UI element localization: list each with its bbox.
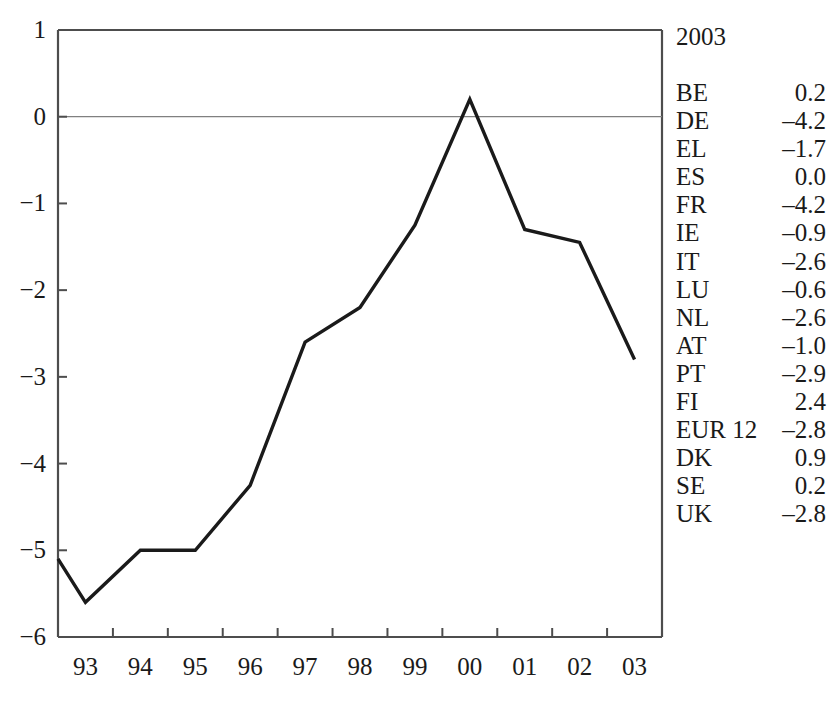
legend-row-value: –0.9 bbox=[782, 219, 826, 247]
x-tick-label: 01 bbox=[495, 654, 555, 679]
line-chart: 10−1−2−3−4−5−6 9394959697989900010203 20… bbox=[0, 0, 832, 710]
x-tick-label: 95 bbox=[165, 654, 225, 679]
y-axis-ticks bbox=[58, 30, 67, 637]
legend-row-value: 0.0 bbox=[795, 163, 826, 191]
legend-row: NL–2.6 bbox=[676, 304, 826, 332]
legend-row: DK0.9 bbox=[676, 444, 826, 472]
y-tick-label: 0 bbox=[0, 104, 46, 129]
legend-row: IT–2.6 bbox=[676, 248, 826, 276]
legend-row-value: –1.7 bbox=[782, 135, 826, 163]
legend-row-label: DK bbox=[676, 444, 712, 472]
legend-row-value: –4.2 bbox=[782, 191, 826, 219]
legend-row-label: NL bbox=[676, 304, 709, 332]
x-axis-ticks bbox=[58, 628, 662, 637]
legend-row-label: BE bbox=[676, 79, 708, 107]
legend-row: FI2.4 bbox=[676, 388, 826, 416]
legend-row-value: 0.2 bbox=[795, 79, 826, 107]
legend-row: ES0.0 bbox=[676, 163, 826, 191]
legend-row-label: AT bbox=[676, 332, 707, 360]
x-tick-label: 98 bbox=[330, 654, 390, 679]
legend-title: 2003 bbox=[676, 24, 826, 49]
x-tick-label: 02 bbox=[550, 654, 610, 679]
legend-row-value: –2.8 bbox=[782, 500, 826, 528]
y-tick-label: 1 bbox=[0, 17, 46, 42]
legend-row-label: ES bbox=[676, 163, 705, 191]
y-tick-label: −4 bbox=[0, 451, 46, 476]
x-tick-label: 99 bbox=[385, 654, 445, 679]
legend-row: SE0.2 bbox=[676, 472, 826, 500]
x-tick-label: 93 bbox=[55, 654, 115, 679]
legend-row: IE–0.9 bbox=[676, 219, 826, 247]
legend-row-label: FI bbox=[676, 388, 698, 416]
legend-row-label: FR bbox=[676, 191, 707, 219]
legend-row-label: DE bbox=[676, 107, 709, 135]
legend-row-value: –2.9 bbox=[782, 360, 826, 388]
data-series-line bbox=[58, 99, 635, 602]
legend-row-label: EUR 12 bbox=[676, 416, 757, 444]
y-tick-label: −2 bbox=[0, 277, 46, 302]
y-tick-label: −1 bbox=[0, 190, 46, 215]
legend-row-label: SE bbox=[676, 472, 705, 500]
legend-row: UK–2.8 bbox=[676, 500, 826, 528]
legend-row: FR–4.2 bbox=[676, 191, 826, 219]
legend-row: EUR 12–2.8 bbox=[676, 416, 826, 444]
axis-frame bbox=[58, 30, 662, 637]
legend-row: AT–1.0 bbox=[676, 332, 826, 360]
x-tick-label: 03 bbox=[605, 654, 665, 679]
y-tick-label: −6 bbox=[0, 624, 46, 649]
legend-row-value: 2.4 bbox=[795, 388, 826, 416]
legend-row-value: 0.9 bbox=[795, 444, 826, 472]
legend-row-value: –2.8 bbox=[782, 416, 826, 444]
legend-row-value: 0.2 bbox=[795, 472, 826, 500]
legend-row: EL–1.7 bbox=[676, 135, 826, 163]
y-tick-label: −3 bbox=[0, 364, 46, 389]
legend-row: BE0.2 bbox=[676, 79, 826, 107]
x-tick-label: 00 bbox=[440, 654, 500, 679]
legend-table: 2003 BE0.2DE–4.2EL–1.7ES0.0FR–4.2IE–0.9I… bbox=[676, 24, 826, 529]
legend-row: DE–4.2 bbox=[676, 107, 826, 135]
legend-row-value: –4.2 bbox=[782, 107, 826, 135]
legend-row-label: LU bbox=[676, 276, 709, 304]
x-tick-label: 94 bbox=[110, 654, 170, 679]
legend-row-value: –1.0 bbox=[782, 332, 826, 360]
legend-row-label: EL bbox=[676, 135, 707, 163]
x-tick-label: 96 bbox=[220, 654, 280, 679]
x-tick-label: 97 bbox=[275, 654, 335, 679]
legend-row-label: UK bbox=[676, 500, 712, 528]
legend-row-value: –2.6 bbox=[782, 304, 826, 332]
legend-rows: BE0.2DE–4.2EL–1.7ES0.0FR–4.2IE–0.9IT–2.6… bbox=[676, 79, 826, 529]
legend-row-value: –0.6 bbox=[782, 276, 826, 304]
legend-row-label: PT bbox=[676, 360, 705, 388]
legend-row: LU–0.6 bbox=[676, 276, 826, 304]
y-tick-label: −5 bbox=[0, 537, 46, 562]
legend-row-label: IE bbox=[676, 219, 700, 247]
legend-row: PT–2.9 bbox=[676, 360, 826, 388]
legend-row-label: IT bbox=[676, 248, 700, 276]
legend-row-value: –2.6 bbox=[782, 248, 826, 276]
